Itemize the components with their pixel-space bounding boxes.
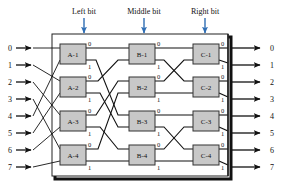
input-label-3: 3 (8, 95, 12, 104)
port-0-label: 0 (157, 40, 160, 47)
port-1-label: 1 (157, 164, 160, 171)
input-label-6: 6 (8, 146, 12, 155)
port-1-label: 1 (88, 96, 91, 103)
stage-caption-middle-label: Middle bit (127, 7, 161, 16)
port-0-label: 0 (221, 107, 224, 114)
port-1-label: 1 (221, 130, 224, 137)
port-1-label: 1 (157, 63, 160, 70)
port-1-label: 1 (157, 130, 160, 137)
port-1-label: 1 (157, 96, 160, 103)
input-label-1: 1 (8, 61, 12, 70)
port-0-label: 0 (88, 107, 91, 114)
input-label-2: 2 (8, 78, 12, 87)
stage-caption-left: Left bit (72, 7, 97, 33)
switch-label: C-2 (201, 84, 212, 92)
port-1-label: 1 (88, 130, 91, 137)
port-0-label: 0 (88, 141, 91, 148)
port-0-label: 0 (157, 73, 160, 80)
input-label-4: 4 (8, 112, 12, 121)
network-canvas: Left bit Middle bit Right bit 0 1 2 3 4 (0, 0, 285, 190)
port-1-label: 1 (221, 96, 224, 103)
port-0-label: 0 (88, 73, 91, 80)
output-label-7: 7 (270, 163, 274, 172)
stage-caption-middle: Middle bit (127, 7, 161, 33)
port-0-label: 0 (221, 141, 224, 148)
port-1-label: 1 (221, 63, 224, 70)
switch-label: B-3 (137, 118, 148, 126)
input-label-5: 5 (8, 129, 12, 138)
output-label-2: 2 (270, 78, 274, 87)
switch-label: B-4 (137, 152, 148, 160)
switch-label: B-2 (137, 84, 148, 92)
port-0-label: 0 (221, 40, 224, 47)
inputs-group: 0 1 2 3 4 5 6 7 (8, 44, 31, 172)
port-0-label: 0 (88, 40, 91, 47)
switch-label: C-3 (201, 118, 212, 126)
output-label-5: 5 (270, 129, 274, 138)
outputs-group: 0 1 2 3 4 5 6 7 (232, 44, 274, 172)
port-0-label: 0 (157, 141, 160, 148)
stage-caption-left-label: Left bit (72, 7, 97, 16)
port-0-label: 0 (157, 107, 160, 114)
switch-label: B-1 (137, 51, 148, 59)
switch-label: A-1 (68, 51, 79, 59)
switch-label: C-4 (201, 152, 212, 160)
output-label-3: 3 (270, 95, 274, 104)
switch-label: A-3 (68, 118, 79, 126)
output-label-0: 0 (270, 44, 274, 53)
output-label-1: 1 (270, 61, 274, 70)
port-0-label: 0 (221, 73, 224, 80)
stage-caption-right-label: Right bit (191, 7, 220, 16)
input-label-0: 0 (8, 44, 12, 53)
switch-label: A-2 (68, 84, 79, 92)
input-label-7: 7 (8, 163, 12, 172)
output-label-4: 4 (270, 112, 274, 121)
switch-label: C-1 (201, 51, 212, 59)
port-1-label: 1 (88, 164, 91, 171)
stage-caption-right: Right bit (191, 7, 220, 33)
port-1-label: 1 (88, 63, 91, 70)
output-label-6: 6 (270, 146, 274, 155)
port-1-label: 1 (221, 164, 224, 171)
omega-network-diagram: Left bit Middle bit Right bit 0 1 2 3 4 (0, 0, 285, 190)
switch-label: A-4 (68, 152, 79, 160)
